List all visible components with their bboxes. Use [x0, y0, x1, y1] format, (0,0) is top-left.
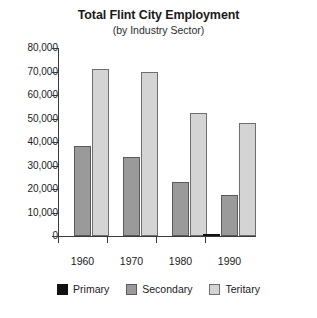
x-axis-tick-mark	[156, 237, 157, 243]
bar-1980-secondary	[172, 182, 189, 236]
x-axis-tick-mark	[205, 237, 206, 243]
y-axis-tick-label: 30,000	[0, 160, 58, 172]
bar-1960-secondary	[74, 146, 91, 236]
x-axis-tick-mark	[58, 237, 59, 243]
legend-item-secondary[interactable]: Secondary	[126, 283, 192, 295]
bar-1970-secondary	[123, 157, 140, 236]
plot-area	[58, 48, 254, 236]
x-axis-tick-label: 1990	[200, 255, 260, 267]
bar-1970-teritary	[141, 72, 158, 237]
tertiary-swatch	[209, 284, 220, 295]
x-axis-tick-mark	[107, 237, 108, 243]
bar-1980-teritary	[190, 113, 207, 236]
y-axis-tick-label: 60,000	[0, 89, 58, 101]
y-axis-tick-label: 10,000	[0, 207, 58, 219]
legend-label: Primary	[73, 283, 109, 295]
y-axis-tick-label: 70,000	[0, 66, 58, 78]
y-axis-tick-label: 40,000	[0, 136, 58, 148]
bar-1960-teritary	[92, 69, 109, 236]
y-axis-tick-label: 50,000	[0, 113, 58, 125]
legend-label: Teritary	[225, 283, 259, 295]
bar-1990-primary	[203, 234, 220, 236]
legend-item-teritary[interactable]: Teritary	[209, 283, 259, 295]
secondary-swatch	[126, 284, 137, 295]
legend-item-primary[interactable]: Primary	[57, 283, 109, 295]
bar-1990-secondary	[221, 195, 238, 236]
x-axis-line	[58, 236, 256, 237]
chart-legend: PrimarySecondaryTeritary	[0, 283, 317, 295]
y-axis-tick-label: 80,000	[0, 42, 58, 54]
chart-subtitle: (by Industry Sector)	[0, 24, 317, 36]
legend-label: Secondary	[142, 283, 192, 295]
chart-title: Total Flint City Employment	[0, 8, 317, 22]
employment-bar-chart: Total Flint City Employment (by Industry…	[0, 0, 317, 318]
bar-1990-teritary	[239, 123, 256, 236]
y-axis-tick-label: 20,000	[0, 183, 58, 195]
y-axis-tick-label: 0	[0, 230, 58, 242]
primary-swatch	[57, 284, 68, 295]
